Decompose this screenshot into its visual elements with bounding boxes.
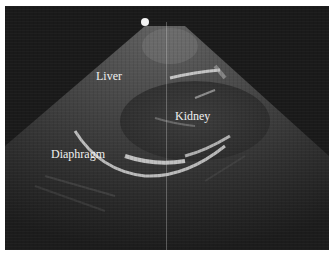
ultrasound-image: Liver Kidney Diaphragm xyxy=(5,6,329,250)
liver-label: Liver xyxy=(96,70,122,82)
center-scan-line xyxy=(166,22,167,250)
orientation-marker-dot xyxy=(141,18,149,26)
diaphragm-label: Diaphragm xyxy=(51,148,105,160)
speckle-noise xyxy=(5,6,329,250)
kidney-label: Kidney xyxy=(175,110,210,122)
